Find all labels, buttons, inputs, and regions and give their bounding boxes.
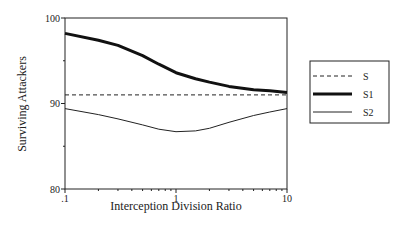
y-tick-label: 100	[45, 13, 60, 24]
legend: S S1 S2	[310, 61, 389, 123]
x-axis-title: Interception Division Ratio	[110, 199, 241, 213]
series-s2	[65, 109, 287, 132]
y-tick-label: 90	[50, 98, 60, 109]
legend-box	[310, 61, 389, 123]
series-s1	[65, 33, 287, 92]
y-tick-label: 80	[50, 184, 60, 195]
x-tick-label: .1	[61, 193, 69, 204]
legend-label-s: S	[363, 71, 369, 82]
chart: 8090100.1110 Interception Division Ratio…	[0, 0, 400, 228]
axes: 8090100.1110	[45, 13, 292, 205]
y-axis-title: Surviving Attackers	[15, 56, 29, 152]
series-lines	[65, 33, 287, 131]
legend-label-s1: S1	[363, 89, 374, 100]
legend-label-s2: S2	[363, 107, 374, 118]
plot-frame	[65, 18, 287, 189]
x-tick-label: 10	[282, 193, 292, 204]
